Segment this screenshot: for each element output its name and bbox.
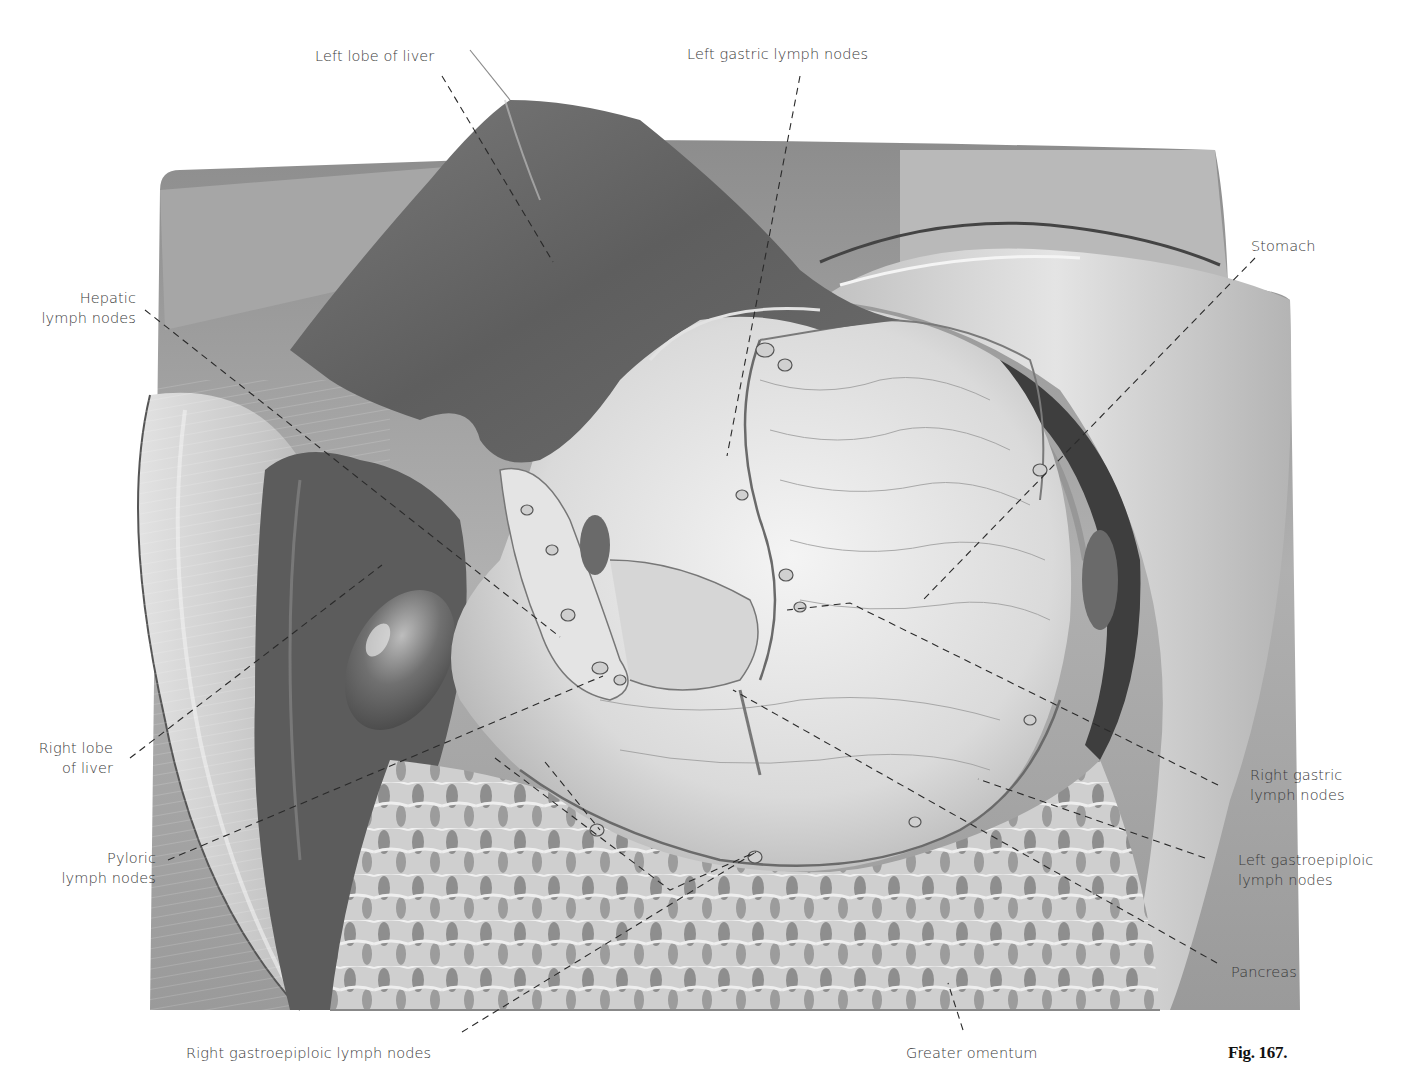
label-greater-omentum: Greater omentum	[906, 1043, 1037, 1063]
label-right-gastric-lymph-nodes: Right gastric lymph nodes	[1250, 765, 1345, 805]
label-line: lymph nodes	[1238, 870, 1373, 890]
label-line: lymph nodes	[50, 868, 156, 888]
label-line: Pyloric	[50, 848, 156, 868]
figure-caption: Fig. 167.	[1228, 1043, 1287, 1063]
label-pancreas: Pancreas	[1231, 962, 1297, 982]
label-line: lymph nodes	[1250, 785, 1345, 805]
label-line: Hepatic	[32, 288, 136, 308]
label-hepatic-lymph-nodes: Hepatic lymph nodes	[32, 288, 136, 328]
label-line: lymph nodes	[32, 308, 136, 328]
label-left-lobe-of-liver: Left lobe of liver	[315, 46, 434, 66]
label-line: of liver	[30, 758, 113, 778]
label-stomach: Stomach	[1251, 236, 1316, 256]
label-line: Left gastroepiploic	[1238, 850, 1373, 870]
label-right-lobe-of-liver: Right lobe of liver	[30, 738, 113, 778]
label-left-gastroepiploic-lymph-nodes: Left gastroepiploic lymph nodes	[1238, 850, 1373, 890]
label-line: Right lobe	[30, 738, 113, 758]
anatomical-illustration	[0, 0, 1413, 1068]
label-right-gastroepiploic-lymph-nodes: Right gastroepiploic lymph nodes	[186, 1043, 431, 1063]
label-left-gastric-lymph-nodes: Left gastric lymph nodes	[687, 44, 868, 64]
label-line: Right gastric	[1250, 765, 1345, 785]
label-pyloric-lymph-nodes: Pyloric lymph nodes	[50, 848, 156, 888]
